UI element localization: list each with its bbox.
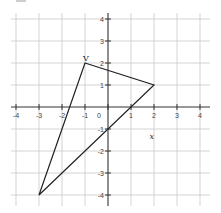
- grid-lines: [11, 13, 210, 206]
- axes: [11, 13, 210, 206]
- y-tick-label: 2: [100, 60, 104, 67]
- x-tick-label: 2: [152, 112, 156, 119]
- y-tick-label: -3: [98, 170, 104, 177]
- annotations: Vx: [82, 54, 154, 141]
- y-tick-label: 1: [100, 82, 104, 89]
- x-tick-label: 1: [129, 112, 133, 119]
- x-tick-label: -3: [36, 112, 42, 119]
- vertex-label: V: [82, 54, 89, 63]
- x-tick-label: -4: [13, 112, 19, 119]
- x-tick-label: 4: [198, 112, 202, 119]
- y-tick-label: -2: [98, 148, 104, 155]
- x-tick-label: -1: [82, 112, 88, 119]
- x-tick-label: 3: [175, 112, 179, 119]
- x-tick-label: -2: [59, 112, 65, 119]
- x-tick-label: 0: [97, 112, 101, 119]
- coordinate-plane: -4-3-2-1012344321-1-2-3-4 Vx: [0, 0, 221, 213]
- y-tick-label: 3: [100, 38, 104, 45]
- x-axis-label: x: [149, 132, 154, 141]
- y-tick-label: -1: [98, 126, 104, 133]
- y-tick-label: 4: [100, 16, 104, 23]
- y-tick-label: -4: [98, 192, 104, 199]
